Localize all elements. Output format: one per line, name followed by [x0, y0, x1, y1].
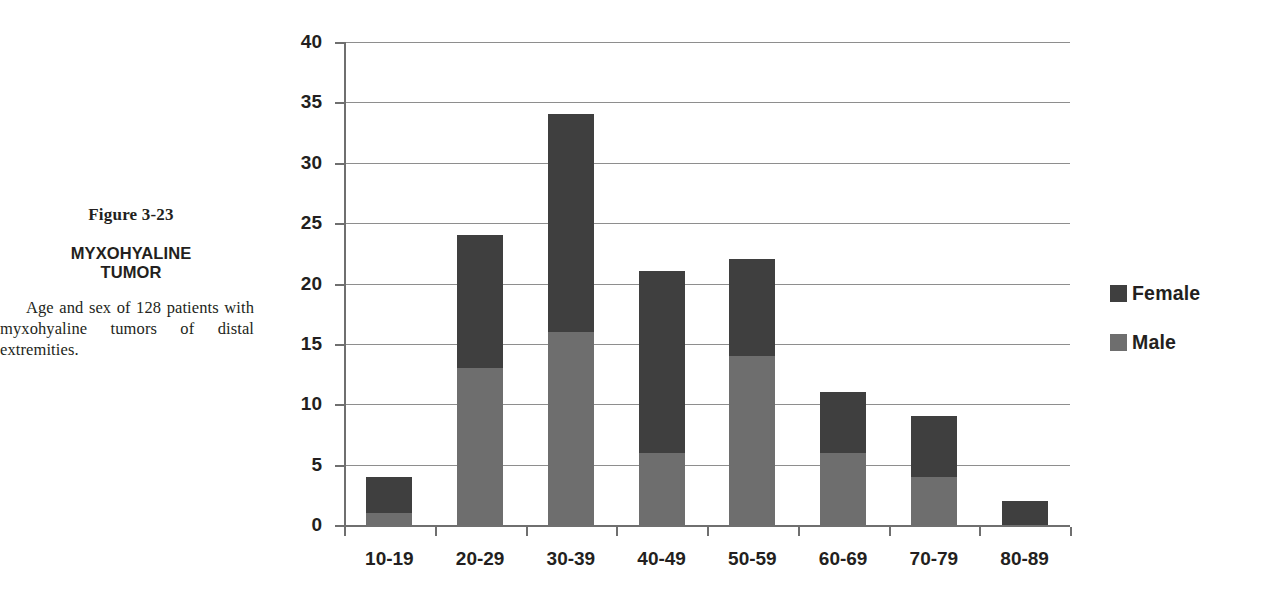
x-tick-mark-end: [1070, 527, 1072, 536]
gridline-y-40: [344, 42, 1070, 43]
bar-segment-male-50-59[interactable]: [729, 356, 775, 525]
y-axis-label-5: 5: [276, 454, 322, 476]
y-tick-mark-25: [335, 223, 344, 225]
x-axis-label-80-89: 80-89: [1000, 548, 1049, 570]
x-axis-label-10-19: 10-19: [365, 548, 414, 570]
x-tick-mark-2: [526, 527, 528, 536]
bar-stack-10-19[interactable]: [366, 477, 412, 525]
bar-segment-male-40-49[interactable]: [639, 453, 685, 525]
bar-stack-40-49[interactable]: [639, 271, 685, 525]
legend-swatch-male: [1110, 334, 1127, 351]
x-axis-label-60-69: 60-69: [819, 548, 868, 570]
y-tick-mark-0: [335, 525, 344, 527]
y-axis-label-40: 40: [276, 31, 322, 53]
x-tick-mark-0: [344, 527, 346, 536]
bar-segment-female-80-89[interactable]: [1002, 501, 1048, 525]
y-tick-mark-30: [335, 163, 344, 165]
bar-segment-male-70-79[interactable]: [911, 477, 957, 525]
x-tick-mark-4: [707, 527, 709, 536]
y-tick-mark-10: [335, 404, 344, 406]
y-axis-label-25: 25: [276, 212, 322, 234]
bar-segment-male-10-19[interactable]: [366, 513, 412, 525]
bar-segment-female-60-69[interactable]: [820, 392, 866, 452]
y-axis-label-35: 35: [276, 91, 322, 113]
y-tick-mark-15: [335, 344, 344, 346]
y-tick-mark-20: [335, 284, 344, 286]
y-axis-label-20: 20: [276, 273, 322, 295]
gridline-y-20: [344, 284, 1070, 285]
gridline-y-15: [344, 344, 1070, 345]
figure-root: Figure 3-23 MYXOHYALINE TUMOR Age and se…: [0, 0, 1266, 603]
x-tick-mark-7: [979, 527, 981, 536]
y-axis-line: [344, 42, 346, 527]
bar-segment-female-70-79[interactable]: [911, 416, 957, 476]
y-tick-mark-35: [335, 102, 344, 104]
x-axis-label-40-49: 40-49: [637, 548, 686, 570]
bar-segment-male-30-39[interactable]: [548, 332, 594, 525]
bar-segment-female-20-29[interactable]: [457, 235, 503, 368]
legend-swatch-female: [1110, 285, 1127, 302]
gridline-y-25: [344, 223, 1070, 224]
x-axis-label-20-29: 20-29: [456, 548, 505, 570]
bar-segment-male-20-29[interactable]: [457, 368, 503, 525]
bar-segment-female-40-49[interactable]: [639, 271, 685, 452]
y-tick-mark-5: [335, 465, 344, 467]
y-axis-label-30: 30: [276, 152, 322, 174]
bar-segment-female-30-39[interactable]: [548, 114, 594, 331]
chart-legend: FemaleMale: [1110, 282, 1200, 380]
bar-stack-20-29[interactable]: [457, 235, 503, 525]
legend-item-male[interactable]: Male: [1110, 331, 1200, 354]
gridline-y-5: [344, 465, 1070, 466]
bar-stack-70-79[interactable]: [911, 416, 957, 525]
x-axis-label-50-59: 50-59: [728, 548, 777, 570]
bar-segment-female-10-19[interactable]: [366, 477, 412, 513]
x-axis-label-70-79: 70-79: [910, 548, 959, 570]
legend-item-female[interactable]: Female: [1110, 282, 1200, 305]
y-axis-label-10: 10: [276, 393, 322, 415]
bar-stack-60-69[interactable]: [820, 392, 866, 525]
gridline-y-35: [344, 102, 1070, 103]
bar-chart: 051015202530354010-1920-2930-3940-4950-5…: [0, 0, 1266, 603]
bar-stack-30-39[interactable]: [548, 114, 594, 525]
y-axis-label-15: 15: [276, 333, 322, 355]
x-tick-mark-1: [435, 527, 437, 536]
x-axis-label-30-39: 30-39: [547, 548, 596, 570]
bar-segment-male-60-69[interactable]: [820, 453, 866, 525]
gridline-y-30: [344, 163, 1070, 164]
gridline-y-10: [344, 404, 1070, 405]
y-tick-mark-40: [335, 42, 344, 44]
legend-label-female: Female: [1132, 282, 1200, 305]
bar-segment-female-50-59[interactable]: [729, 259, 775, 356]
y-axis-label-0: 0: [276, 514, 322, 536]
bar-stack-80-89[interactable]: [1002, 501, 1048, 525]
x-tick-mark-3: [616, 527, 618, 536]
x-tick-mark-6: [889, 527, 891, 536]
x-tick-mark-5: [798, 527, 800, 536]
legend-label-male: Male: [1132, 331, 1176, 354]
bar-stack-50-59[interactable]: [729, 259, 775, 525]
